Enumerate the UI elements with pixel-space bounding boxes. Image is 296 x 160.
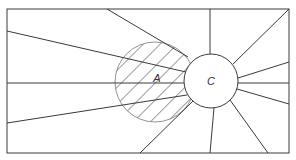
ray (210, 108, 214, 153)
label-c: C (207, 75, 215, 87)
diagram-canvas: A C (0, 0, 296, 160)
ray (238, 62, 289, 78)
ray (237, 89, 289, 104)
ray (233, 9, 289, 64)
ray (230, 100, 268, 153)
label-a: A (152, 72, 160, 84)
